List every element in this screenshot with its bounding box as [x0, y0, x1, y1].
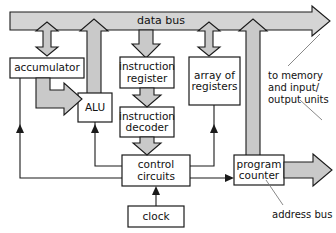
block-array-of-registers	[189, 57, 240, 105]
block-instruction-register	[120, 57, 174, 88]
arrow-program-counter-to-bus	[239, 19, 267, 160]
arrow-instruction-register-to-decoder	[133, 88, 161, 107]
arrow-instruction-decoder-to-control	[133, 137, 161, 155]
arrow-program-counter-to-address-bus	[284, 154, 332, 186]
leader-to-memory-note	[288, 34, 320, 66]
block-accumulator	[10, 58, 84, 78]
diagram-canvas: .bus { fill:#d4d4d4; stroke:#1a1a1a; str…	[0, 0, 336, 233]
block-control-circuits	[122, 155, 190, 186]
block-instruction-decoder	[120, 107, 174, 137]
wire-control-to-array-of-registers	[190, 105, 218, 166]
wire-control-to-program-counter	[190, 174, 234, 182]
block-clock	[128, 206, 184, 227]
arrow-accumulator-to-alu	[36, 78, 82, 115]
wire-clock-to-control	[152, 186, 160, 206]
block-program-counter	[234, 155, 284, 185]
arrow-alu-to-bus	[80, 19, 108, 95]
wire-control-to-alu	[91, 122, 122, 166]
arrow-bus-instruction-register	[132, 30, 160, 58]
leader-to-memory-note-2	[300, 100, 322, 120]
cpu-block-diagram: .bus { fill:#d4d4d4; stroke:#1a1a1a; str…	[0, 0, 336, 233]
block-alu	[78, 93, 112, 122]
